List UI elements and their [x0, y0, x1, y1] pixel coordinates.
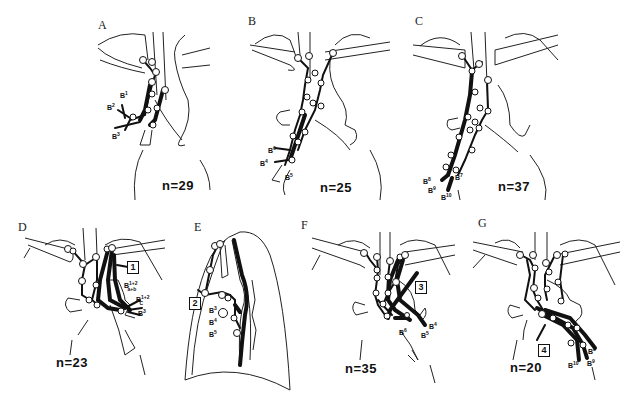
bronchus-b5-sup: 5 — [290, 172, 293, 178]
panel-d: D 1 B1+2a+b B1+2C B3 n=23 — [0, 200, 180, 405]
bronchus-label-b1: B1 — [120, 90, 128, 99]
bronchus-b5-sup: 5 — [426, 330, 429, 336]
bronchus-b12c-sub: C — [140, 300, 144, 306]
marker-box-2: 2 — [189, 297, 201, 310]
bronchus-label-b6: B6 — [399, 327, 407, 336]
bronchus-b2-sup: 2 — [112, 102, 115, 108]
bronchus-label-b4: B4 — [260, 158, 268, 167]
case-count-f: n=35 — [345, 361, 377, 376]
bronchus-b9-sup: 9 — [592, 358, 595, 364]
case-count-g: n=20 — [510, 360, 542, 375]
bronchus-label-b5: B5 — [209, 329, 217, 338]
bronchus-b7-sup: 7 — [460, 172, 463, 178]
marker-box-4: 4 — [538, 344, 550, 357]
panel-label-d: D — [18, 220, 27, 235]
bronchus-label-b4: B4 — [429, 321, 437, 330]
panel-c-diagram — [410, 0, 630, 200]
bronchus-label-b1-2-ab: B1+2a+b — [124, 280, 136, 292]
bronchus-label-b9: B9 — [428, 185, 436, 194]
marker-box-3: 3 — [415, 281, 427, 294]
bronchus-b4-sup: 4 — [434, 321, 437, 327]
bronchus-b6-sup: 6 — [404, 327, 407, 333]
bronchus-b1-sup: 1 — [125, 90, 128, 96]
bronchus-label-b1-2-c: B1+2C — [136, 294, 143, 306]
bronchus-label-b4: B4 — [209, 317, 217, 326]
bronchus-b10-sup: 10 — [446, 192, 452, 198]
bronchus-b8-sup: 8 — [428, 176, 431, 182]
bronchus-b4-sup: 4 — [265, 158, 268, 164]
case-count-b: n=25 — [320, 180, 352, 195]
bronchus-label-b5: B5 — [285, 172, 293, 181]
case-count-c: n=37 — [498, 179, 530, 194]
panel-label-e: E — [194, 220, 201, 235]
panel-c: C B7 B8 B9 B10 n=37 — [410, 0, 630, 200]
panel-b: B B6 B4 B5 n=25 — [210, 0, 410, 200]
bronchus-b3-sup: 3 — [117, 131, 120, 137]
bronchus-b3-sup: 3 — [214, 305, 217, 311]
bronchus-b4-sup: 4 — [214, 317, 217, 323]
bronchus-b9-sup: 9 — [433, 185, 436, 191]
panel-label-f: F — [301, 218, 308, 233]
bronchus-label-b10: B10 — [568, 360, 579, 369]
panel-f: F 3 B4 B5 B6 n=35 — [300, 200, 460, 405]
bronchus-label-b7: B7 — [455, 172, 463, 181]
marker-box-1: 1 — [127, 261, 139, 274]
bronchus-label-b3: B3 — [209, 305, 217, 314]
bronchus-label-b2: B2 — [107, 102, 115, 111]
case-count-d: n=23 — [56, 355, 88, 370]
case-count-a: n=29 — [162, 178, 194, 193]
bronchus-label-b8: B8 — [423, 176, 431, 185]
panel-label-b: B — [248, 14, 256, 29]
panel-b-diagram — [210, 0, 410, 200]
bronchus-label-b3: B3 — [112, 131, 120, 140]
bronchus-label-b3: B3 — [138, 308, 146, 317]
panel-label-c: C — [415, 14, 423, 29]
panel-e: E 2 B3 B4 B5 — [180, 200, 305, 405]
bronchus-label-b9: B9 — [587, 358, 595, 367]
panel-label-g: G — [478, 216, 487, 231]
bronchus-label-b8: B8 — [588, 346, 596, 355]
bronchus-b6-sup: 6 — [273, 145, 276, 151]
bronchus-b3-sup: 3 — [143, 308, 146, 314]
bronchus-label-b6: B6 — [268, 145, 276, 154]
panel-label-a: A — [98, 18, 107, 33]
panel-d-diagram — [0, 200, 180, 405]
bronchus-b12ab-sub: a+b — [128, 286, 137, 292]
panel-g: G 4 B8 B9 B10 n=20 — [455, 200, 630, 405]
panel-f-diagram — [300, 200, 460, 405]
bronchus-b8-sup: 8 — [593, 346, 596, 352]
bronchus-label-b5: B5 — [421, 330, 429, 339]
panel-a: A B1 B2 B3 n=29 — [0, 0, 210, 200]
bronchus-b10-sup: 10 — [573, 360, 579, 366]
bronchus-b5-sup: 5 — [214, 329, 217, 335]
